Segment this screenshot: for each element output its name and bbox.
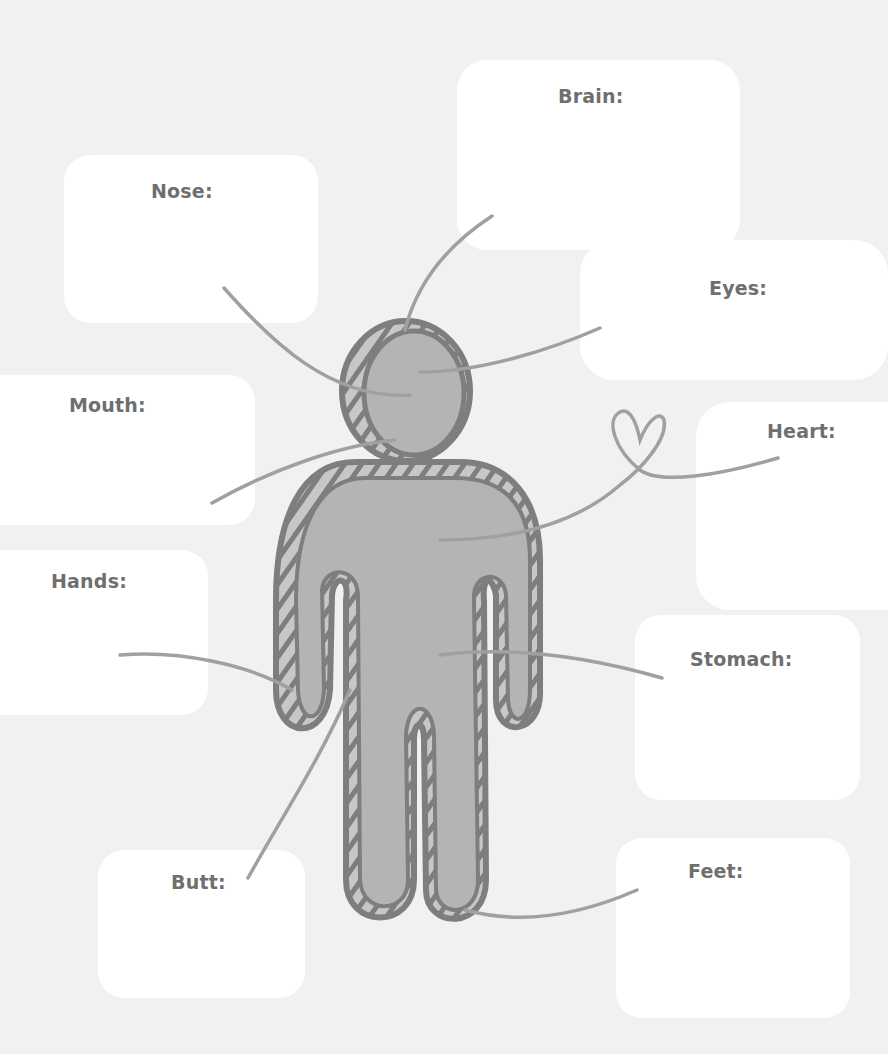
eyes-label: Eyes: xyxy=(709,277,767,299)
torso-shape xyxy=(276,462,540,919)
nose-label: Nose: xyxy=(151,180,213,202)
mouth-label: Mouth: xyxy=(69,394,146,416)
brain-label: Brain: xyxy=(558,85,624,107)
hands-label: Hands: xyxy=(51,570,127,592)
heart-label: Heart: xyxy=(767,420,836,442)
stomach-label: Stomach: xyxy=(690,648,792,670)
butt-label: Butt: xyxy=(171,871,226,893)
hands-connector-line xyxy=(120,654,292,690)
feet-connector-line xyxy=(465,890,637,917)
brain-connector-line xyxy=(405,216,492,330)
body-figure-illustration xyxy=(0,0,888,1054)
feet-label: Feet: xyxy=(688,860,744,882)
